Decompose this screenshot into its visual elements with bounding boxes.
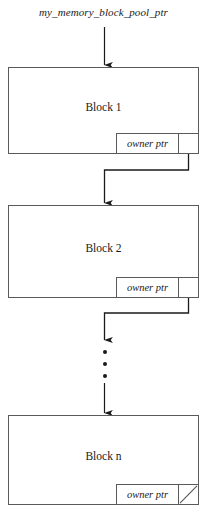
owner-ptr-label: owner ptr xyxy=(117,485,179,504)
owner-ptr-label: owner ptr xyxy=(117,134,179,153)
owner-ptr-slot[interactable] xyxy=(179,278,198,297)
owner-ptr-slot-null[interactable] xyxy=(179,485,198,504)
null-pointer-slash-icon xyxy=(179,485,198,504)
owner-ptr-row-block-1[interactable]: owner ptr xyxy=(116,133,199,154)
owner-ptr-row-block-n[interactable]: owner ptr xyxy=(116,484,199,505)
block-title: Block 2 xyxy=(9,242,198,254)
owner-ptr-label: owner ptr xyxy=(117,278,179,297)
ellipsis-dot xyxy=(103,374,107,378)
owner-ptr-slot[interactable] xyxy=(179,134,198,153)
memory-block-pool-diagram: my_memory_block_pool_ptr Block 1 owner p… xyxy=(0,0,207,515)
pool-pointer-label: my_memory_block_pool_ptr xyxy=(0,6,207,18)
ellipsis-dot xyxy=(103,362,107,366)
block-title: Block 1 xyxy=(9,101,198,113)
vertical-ellipsis-icon xyxy=(99,350,110,378)
ellipsis-dot xyxy=(103,350,107,354)
owner-ptr-row-block-2[interactable]: owner ptr xyxy=(116,277,199,298)
block-title: Block n xyxy=(9,450,198,462)
